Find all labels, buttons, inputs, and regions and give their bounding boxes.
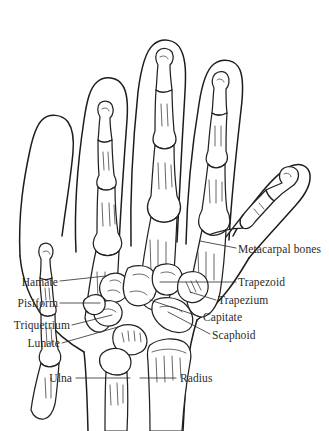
label-triquetrium: Triquetrium <box>2 320 70 332</box>
label-radius: Radius <box>180 373 213 385</box>
label-lunate: Lunate <box>20 338 60 350</box>
label-capitate: Capitate <box>203 312 242 324</box>
hand-skeleton-figure: .o { fill:#ffffff; stroke:#1d1c1a; strok… <box>0 0 329 431</box>
forearm-bones <box>100 339 191 431</box>
trapezium-bone <box>178 272 209 303</box>
label-hamate: Hamate <box>14 277 58 289</box>
label-pisiform: Pisiform <box>10 298 58 310</box>
label-scaphoid: Scaphoid <box>212 330 256 342</box>
label-ulna: Ulna <box>44 373 72 385</box>
ulna-head <box>100 348 131 375</box>
label-metacarpal-bones: Metacarpal bones <box>238 244 321 256</box>
label-trapezoid: Trapezoid <box>238 277 285 289</box>
ulna-shaft <box>105 372 128 431</box>
label-trapezium: Trapezium <box>218 295 268 307</box>
capitate-bone <box>123 266 157 306</box>
hand-skeleton-illustration: .o { fill:#ffffff; stroke:#1d1c1a; strok… <box>0 0 329 431</box>
pisiform-bone <box>83 295 105 315</box>
